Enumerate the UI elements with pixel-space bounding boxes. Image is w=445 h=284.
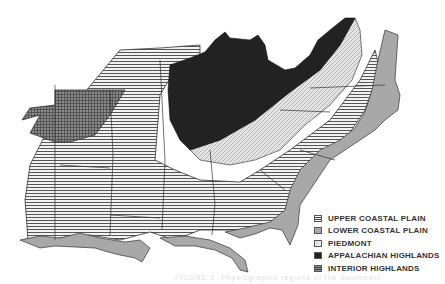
legend-item-interior-highlands: INTERIOR HIGHLANDS: [314, 262, 440, 275]
appalachian-highlands-swatch-icon: [314, 252, 322, 259]
legend-label: INTERIOR HIGHLANDS: [328, 264, 420, 273]
legend-label: APPALACHIAN HIGHLANDS: [328, 251, 440, 260]
legend-label: LOWER COASTAL PLAIN: [328, 226, 428, 235]
lower-coastal-plain-swatch-icon: [314, 227, 322, 234]
legend-item-piedmont: PIEDMONT: [314, 237, 440, 250]
legend-item-lower-coastal-plain: LOWER COASTAL PLAIN: [314, 225, 440, 238]
piedmont-swatch-icon: [314, 240, 322, 247]
legend-label: PIEDMONT: [328, 239, 372, 248]
interior-highlands-swatch-icon: [314, 265, 322, 272]
map-legend: UPPER COASTAL PLAIN LOWER COASTAL PLAIN …: [314, 212, 440, 275]
legend-label: UPPER COASTAL PLAIN: [328, 214, 426, 223]
region-lower-coastal-plain-florida: [160, 236, 248, 272]
figure-caption: FIGURE 1. Physiographic regions of the S…: [175, 274, 381, 281]
legend-item-upper-coastal-plain: UPPER COASTAL PLAIN: [314, 212, 440, 225]
upper-coastal-plain-swatch-icon: [314, 215, 322, 222]
legend-item-appalachian-highlands: APPALACHIAN HIGHLANDS: [314, 250, 440, 263]
